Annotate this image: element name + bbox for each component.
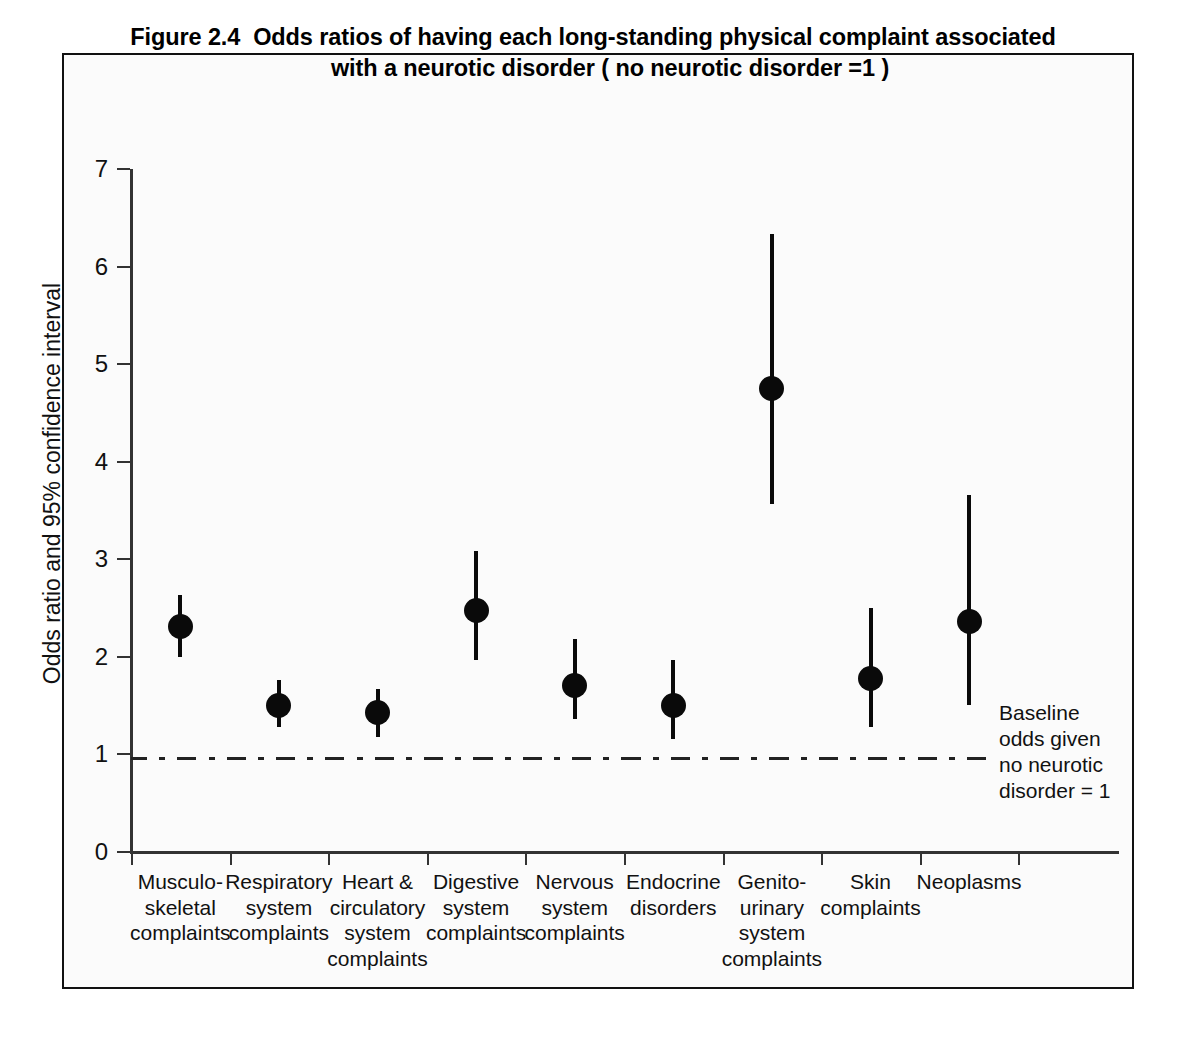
figure-title: Figure 2.4 Odds ratios of having each lo… [0,22,1192,84]
baseline-annotation-line-2: odds given [999,726,1159,752]
figure-title-line-2: with a neurotic disorder ( no neurotic d… [0,53,1192,84]
figure-title-line-1: Figure 2.4 Odds ratios of having each lo… [0,22,1192,53]
figure-frame [62,53,1134,989]
baseline-annotation-line-1: Baseline [999,700,1159,726]
baseline-annotation-line-4: disorder = 1 [999,778,1159,804]
baseline-annotation-line-3: no neurotic [999,752,1159,778]
baseline-annotation: Baseline odds given no neurotic disorder… [999,700,1159,804]
